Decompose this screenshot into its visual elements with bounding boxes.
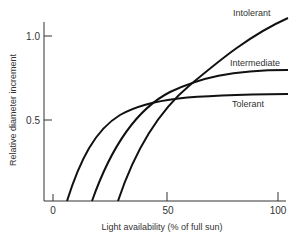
curves: [67, 18, 288, 201]
curve-intermediate: [92, 70, 288, 201]
x-axis: 0 50 100 Light availability (% of full s…: [44, 192, 287, 232]
label-intermediate: Intermediate: [230, 58, 280, 68]
curve-intolerant: [118, 18, 288, 201]
x-tick-0: 0: [50, 205, 56, 216]
x-axis-label: Light availability (% of full sun): [101, 222, 222, 232]
y-axis-label: Relative diameter increment: [8, 53, 18, 166]
curve-tolerant: [67, 94, 288, 201]
y-tick-0.5: 0.5: [26, 115, 40, 126]
x-tick-100: 100: [270, 205, 287, 216]
x-tick-50: 50: [162, 205, 174, 216]
chart: 1.0 0.5 Relative diameter increment 0 50…: [0, 0, 303, 237]
y-tick-1.0: 1.0: [26, 31, 40, 42]
y-axis: 1.0 0.5 Relative diameter increment: [8, 22, 52, 201]
label-intolerant: Intolerant: [233, 8, 271, 18]
label-tolerant: Tolerant: [232, 99, 265, 109]
